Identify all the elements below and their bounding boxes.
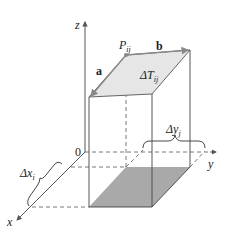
z-axis-label: z: [74, 18, 80, 32]
origin-label: 0: [75, 145, 81, 159]
delta-x-label: Δxi: [19, 166, 35, 182]
tangent-plane-diagram: z y x 0 Pij b a ΔTij Δyj Δxi: [0, 0, 226, 231]
delta-y-label: Δyj: [165, 122, 181, 138]
brace-delta-x: [28, 162, 62, 206]
x-axis-label: x: [6, 215, 13, 229]
vector-b-label: b: [156, 39, 163, 53]
base-region: [89, 167, 190, 207]
vector-a-label: a: [96, 64, 102, 78]
x-axis: [17, 152, 85, 220]
y-axis-label: y: [207, 157, 214, 171]
point-label: Pij: [118, 38, 132, 54]
